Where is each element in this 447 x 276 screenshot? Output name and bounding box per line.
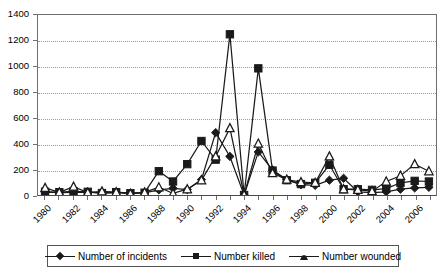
- series-3: [41, 124, 433, 195]
- x-tick-mark: [144, 196, 145, 200]
- x-tick-label: 1988: [138, 203, 168, 233]
- y-tick-label: 1200: [0, 35, 29, 45]
- marker-diamond: [226, 152, 234, 160]
- y-tick-label: 800: [0, 87, 29, 97]
- y-tick-mark: [33, 40, 37, 41]
- marker-square: [226, 31, 233, 38]
- x-tick-mark: [230, 196, 231, 200]
- series-layer: [38, 15, 436, 195]
- y-tick-label: 1400: [0, 9, 29, 19]
- series-line: [45, 128, 429, 195]
- chart-legend: Number of incidentsNumber killedNumber w…: [47, 245, 399, 267]
- x-tick-mark: [73, 196, 74, 200]
- y-tick-label: 600: [0, 113, 29, 123]
- marker-square: [155, 168, 162, 175]
- legend-swatch: [181, 250, 211, 262]
- legend-label: Number of incidents: [78, 251, 167, 262]
- marker-triangle: [41, 183, 49, 191]
- y-tick-label: 400: [0, 139, 29, 149]
- x-tick-mark: [58, 196, 59, 200]
- marker-triangle: [226, 124, 234, 132]
- x-tick-mark: [87, 196, 88, 200]
- x-tick-label: 1996: [252, 203, 282, 233]
- x-tick-mark: [330, 196, 331, 200]
- x-tick-label: 1998: [281, 203, 311, 233]
- x-tick-mark: [173, 196, 174, 200]
- y-tick-mark: [33, 66, 37, 67]
- x-tick-mark: [44, 196, 45, 200]
- marker-square: [255, 65, 262, 72]
- chart-figure: 0200400600800100012001400 19801982198419…: [0, 0, 447, 276]
- y-tick-label: 200: [0, 165, 29, 175]
- x-tick-label: 1980: [24, 203, 54, 233]
- legend-square-icon: [193, 253, 199, 259]
- x-tick-label: 2004: [366, 203, 396, 233]
- x-tick-label: 1992: [195, 203, 225, 233]
- legend-triangle-inner: [301, 250, 307, 255]
- x-tick-mark: [244, 196, 245, 200]
- marker-triangle: [425, 167, 433, 175]
- marker-triangle: [382, 177, 390, 185]
- marker-triangle: [69, 182, 77, 190]
- legend-triangle-icon: [300, 252, 308, 260]
- series-2: [41, 31, 432, 195]
- x-tick-label: 2000: [309, 203, 339, 233]
- y-tick-label: 1000: [0, 61, 29, 71]
- marker-square: [383, 185, 390, 192]
- x-tick-label: 1994: [224, 203, 254, 233]
- y-tick-mark: [33, 92, 37, 93]
- marker-triangle: [410, 160, 418, 168]
- marker-triangle: [155, 183, 163, 191]
- legend-item-3: Number wounded: [289, 250, 401, 262]
- x-tick-mark: [116, 196, 117, 200]
- x-tick-label: 2006: [395, 203, 425, 233]
- y-tick-mark: [33, 144, 37, 145]
- x-tick-label: 1990: [166, 203, 196, 233]
- series-line: [45, 34, 429, 195]
- x-tick-mark: [287, 196, 288, 200]
- x-tick-label: 2002: [338, 203, 368, 233]
- y-tick-mark: [33, 14, 37, 15]
- y-tick-label: 0: [0, 191, 29, 201]
- x-tick-mark: [258, 196, 259, 200]
- legend-diamond-icon: [56, 252, 64, 260]
- x-tick-mark: [187, 196, 188, 200]
- x-tick-mark: [201, 196, 202, 200]
- x-tick-label: 1982: [52, 203, 82, 233]
- marker-triangle: [396, 171, 404, 179]
- marker-triangle: [254, 139, 262, 147]
- x-tick-mark: [216, 196, 217, 200]
- x-tick-label: 1986: [109, 203, 139, 233]
- legend-swatch: [289, 250, 319, 262]
- x-tick-mark: [316, 196, 317, 200]
- marker-square: [411, 177, 418, 184]
- x-tick-mark: [273, 196, 274, 200]
- x-tick-mark: [430, 196, 431, 200]
- marker-square: [425, 178, 432, 185]
- legend-item-1: Number of incidents: [45, 250, 167, 262]
- x-tick-mark: [344, 196, 345, 200]
- x-tick-mark: [158, 196, 159, 200]
- x-tick-mark: [416, 196, 417, 200]
- x-tick-label: 1984: [81, 203, 111, 233]
- legend-label: Number killed: [214, 251, 275, 262]
- marker-square: [397, 179, 404, 186]
- y-tick-mark: [33, 118, 37, 119]
- y-tick-mark: [33, 196, 37, 197]
- x-tick-mark: [401, 196, 402, 200]
- marker-square: [169, 178, 176, 185]
- legend-label: Number wounded: [322, 251, 401, 262]
- marker-diamond: [325, 176, 333, 184]
- marker-square: [184, 160, 191, 167]
- x-tick-mark: [301, 196, 302, 200]
- marker-diamond: [410, 184, 418, 192]
- plot-area: [37, 14, 437, 196]
- x-tick-mark: [101, 196, 102, 200]
- x-tick-mark: [130, 196, 131, 200]
- x-tick-mark: [373, 196, 374, 200]
- legend-item-2: Number killed: [181, 250, 275, 262]
- y-tick-mark: [33, 170, 37, 171]
- marker-triangle: [325, 152, 333, 160]
- marker-square: [198, 137, 205, 144]
- x-tick-mark: [358, 196, 359, 200]
